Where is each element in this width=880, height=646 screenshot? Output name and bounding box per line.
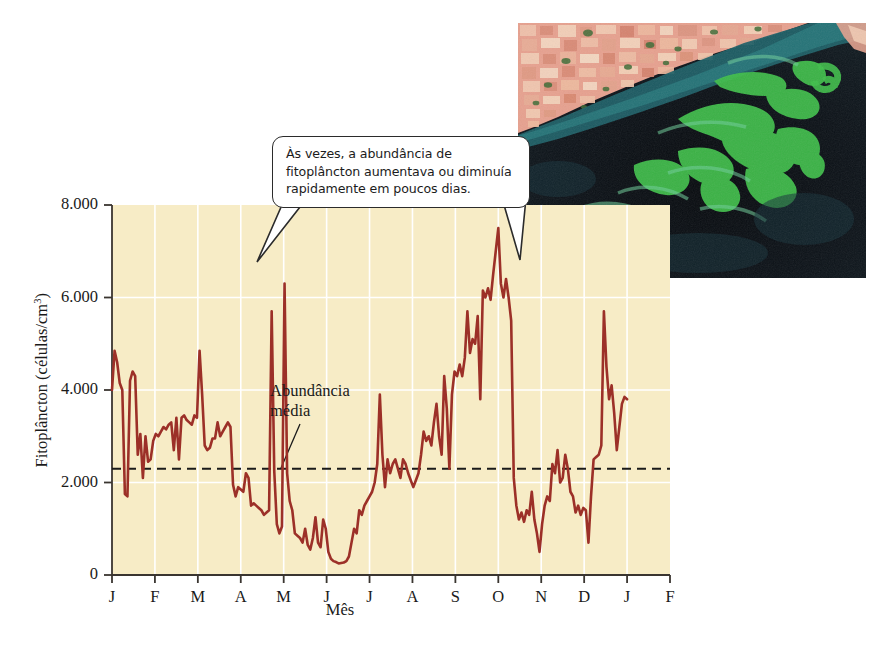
y-tick-label: 0 — [6, 564, 98, 584]
x-tick-label: D — [569, 587, 599, 607]
callout-line-2: fitoplâncton aumentava ou diminuía — [286, 163, 518, 181]
x-tick-label: J — [312, 587, 342, 607]
x-tick-label: J — [97, 587, 127, 607]
x-tick-label: J — [612, 587, 642, 607]
callout-box: Às vezes, a abundância de fitoplâncton a… — [272, 136, 530, 208]
x-tick-label: A — [397, 587, 427, 607]
x-tick-label: J — [355, 587, 385, 607]
x-tick-label: A — [226, 587, 256, 607]
y-tick-label: 6.000 — [6, 287, 98, 307]
x-tick-label: N — [526, 587, 556, 607]
x-tick-marks — [112, 575, 670, 583]
callout-line-1: Às vezes, a abundância de — [286, 145, 518, 163]
x-tick-label: M — [269, 587, 299, 607]
mean-label-line-2: média — [270, 401, 350, 421]
phytoplankton-abundance-figure: Às vezes, a abundância de fitoplâncton a… — [0, 0, 880, 646]
callout-line-3: rapidamente em poucos dias. — [286, 180, 518, 198]
mean-abundance-label: Abundância média — [270, 381, 350, 421]
mean-label-line-1: Abundância — [270, 381, 350, 401]
x-tick-label: O — [483, 587, 513, 607]
y-tick-label: 4.000 — [6, 379, 98, 399]
phytoplankton-line-chart — [0, 0, 880, 646]
y-tick-label: 2.000 — [6, 472, 98, 492]
x-tick-label: S — [440, 587, 470, 607]
y-tick-label: 8.000 — [6, 194, 98, 214]
x-tick-label: M — [183, 587, 213, 607]
x-tick-label: F — [655, 587, 685, 607]
x-tick-label: F — [140, 587, 170, 607]
